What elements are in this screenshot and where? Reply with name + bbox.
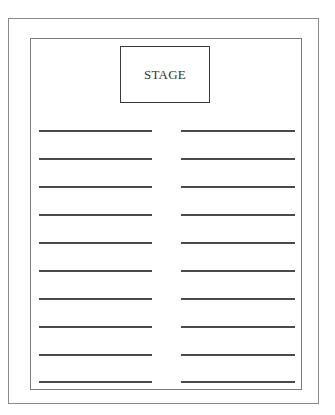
seat-row-line-left-1	[39, 130, 152, 132]
seat-row-line-right-10	[181, 381, 295, 383]
seat-row-line-left-8	[39, 326, 152, 328]
seat-row-line-right-5	[181, 242, 295, 244]
seat-row-line-left-2	[39, 158, 152, 160]
seat-row-line-left-7	[39, 298, 152, 300]
seat-row-line-right-2	[181, 158, 295, 160]
seat-row-line-right-8	[181, 326, 295, 328]
seat-row-line-right-4	[181, 214, 295, 216]
stage-box: STAGE	[120, 46, 210, 103]
seat-row-line-right-6	[181, 270, 295, 272]
seat-row-line-left-9	[39, 354, 152, 356]
seat-row-line-left-5	[39, 242, 152, 244]
seat-row-line-right-1	[181, 130, 295, 132]
seat-row-line-right-7	[181, 298, 295, 300]
seat-row-line-left-4	[39, 214, 152, 216]
stage-label: STAGE	[144, 67, 186, 83]
seat-row-line-right-9	[181, 354, 295, 356]
seat-row-line-left-10	[39, 381, 152, 383]
seat-row-line-right-3	[181, 186, 295, 188]
seat-row-line-left-3	[39, 186, 152, 188]
seat-row-line-left-6	[39, 270, 152, 272]
